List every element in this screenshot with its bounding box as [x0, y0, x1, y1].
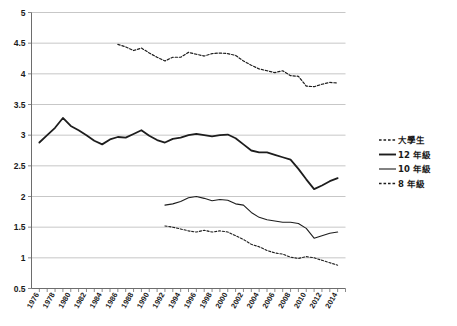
x-axis-tick-label: 2008 — [276, 291, 292, 310]
y-axis-tick-label: 0.5 — [14, 284, 26, 294]
y-axis-tick-label: 2.5 — [14, 161, 26, 171]
y-axis-tick-label: 5 — [21, 8, 26, 18]
x-axis-tick-label: 1990 — [135, 291, 151, 310]
y-axis-tick-label: 3.5 — [14, 100, 26, 110]
x-axis-tick-label: 1992 — [151, 291, 167, 310]
legend-label: 10 年級 — [398, 164, 431, 174]
legend-label: 8 年級 — [398, 179, 425, 189]
x-axis-tick-label: 2002 — [229, 291, 245, 310]
chart-axes — [32, 13, 346, 289]
x-axis-tick-label: 1980 — [56, 291, 72, 310]
x-axis-tickmarks — [28, 13, 346, 293]
x-axis-tick-label: 1976 — [25, 291, 41, 310]
x-axis-labels: 1976197819801982198419861988199019921994… — [25, 290, 340, 310]
y-axis-labels: 0.511.522.533.544.55 — [14, 8, 26, 294]
chart-canvas: 0.511.522.533.544.55 1976197819801982198… — [0, 0, 457, 326]
data-series-group — [39, 44, 337, 265]
x-axis-tick-label: 1996 — [182, 291, 198, 310]
y-axis-tick-label: 3 — [21, 130, 26, 140]
y-axis-tick-label: 4 — [21, 69, 26, 79]
x-axis-tick-label: 1994 — [166, 290, 183, 310]
x-axis-tick-label: 1982 — [72, 291, 88, 310]
legend-label: 12 年級 — [398, 150, 431, 160]
y-axis-tick-label: 1.5 — [14, 222, 26, 232]
series-line-3 — [165, 197, 338, 239]
x-axis-tick-label: 2000 — [213, 291, 229, 310]
y-axis-tick-label: 4.5 — [14, 38, 26, 48]
y-axis-tick-label: 1 — [21, 253, 26, 263]
line-chart: 0.511.522.533.544.55 1976197819801982198… — [0, 0, 457, 326]
x-axis-tick-label: 1988 — [119, 291, 135, 310]
x-axis-tick-label: 2006 — [260, 291, 276, 310]
x-axis-tick-label: 2014 — [323, 290, 340, 310]
x-axis-tick-label: 1978 — [41, 291, 57, 310]
legend-label: 大學生 — [398, 135, 425, 145]
y-axis-tick-label: 2 — [21, 192, 26, 202]
x-axis-tick-label: 2010 — [292, 291, 308, 310]
chart-legend: 大學生12 年級10 年級8 年級 — [379, 135, 431, 189]
x-axis-tick-label: 1984 — [88, 290, 105, 310]
x-axis-tick-label: 2012 — [308, 291, 324, 310]
x-axis-tick-label: 1986 — [103, 291, 119, 310]
series-line-2 — [39, 118, 337, 189]
x-axis-tick-label: 2004 — [245, 290, 262, 310]
x-axis-tick-label: 1998 — [198, 291, 214, 310]
series-line-1 — [118, 44, 338, 86]
series-line-4 — [165, 226, 338, 265]
